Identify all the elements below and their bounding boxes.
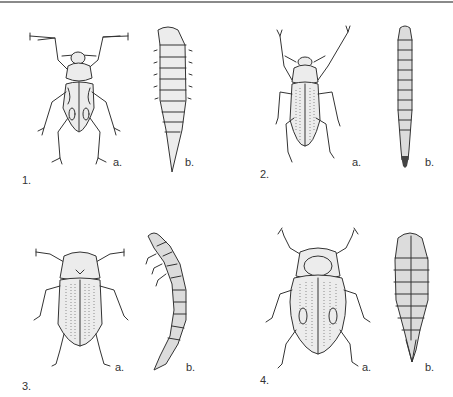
figure-4b-larva-illustration <box>0 0 453 397</box>
figure-4a-label: a. <box>362 361 371 373</box>
figure-4b-label: b. <box>425 361 434 373</box>
figure-4-number: 4. <box>260 374 269 386</box>
